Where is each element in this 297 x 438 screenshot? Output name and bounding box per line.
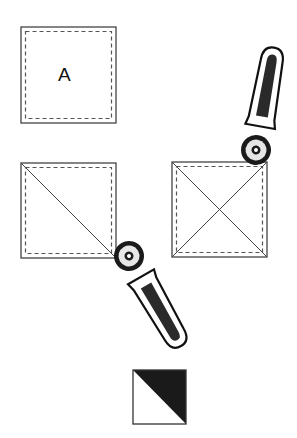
square-a-label: A (58, 64, 71, 86)
square-diagonal-cut (21, 163, 116, 258)
rotary-cutter-icon (239, 45, 289, 167)
rotary-cutter-icon (109, 236, 194, 354)
square-x-cut (172, 162, 267, 257)
half-square-triangle (133, 370, 186, 424)
diagram-canvas (0, 0, 297, 438)
